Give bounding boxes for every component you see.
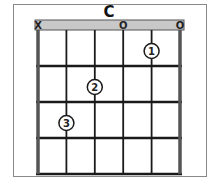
- finger-dot: 2: [87, 80, 102, 95]
- finger-dot: 1: [144, 44, 159, 59]
- finger-dot: 3: [59, 116, 74, 131]
- chord-name: C: [103, 3, 114, 21]
- chord-diagram: C XOO 123: [0, 0, 214, 182]
- open-string-marker: O: [176, 20, 185, 31]
- nut-bar: [35, 20, 184, 30]
- finger-number: 1: [148, 46, 155, 57]
- finger-number: 3: [63, 118, 70, 129]
- muted-string-marker: X: [34, 20, 42, 31]
- open-string-marker: O: [119, 20, 128, 31]
- finger-number: 2: [91, 82, 98, 93]
